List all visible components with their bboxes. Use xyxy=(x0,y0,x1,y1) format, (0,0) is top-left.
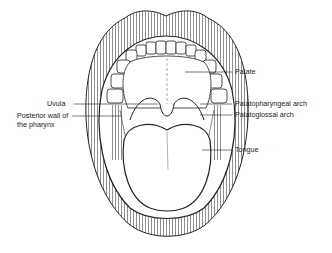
label-posterior-wall-2: the pharynx xyxy=(17,121,55,129)
label-palate: Palate xyxy=(235,68,255,76)
label-uvula: Uvula xyxy=(47,100,65,108)
label-palatoglossal-arch: Palatoglossal arch xyxy=(235,111,294,119)
label-posterior-wall-1: Posterior wall of xyxy=(17,112,68,120)
label-palatopharyngeal-arch: Palatopharyngeal arch xyxy=(235,100,307,108)
label-tongue: Tongue xyxy=(235,146,259,154)
